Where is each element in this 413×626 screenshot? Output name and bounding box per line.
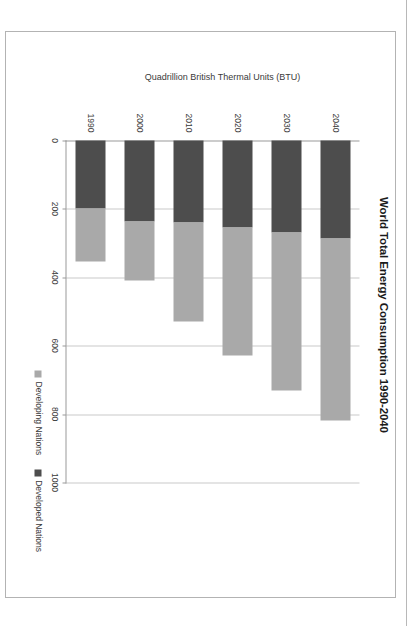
value-axis-title: Quadrillion British Thermal Units (BTU) (102, 71, 342, 81)
value-tick-label: 1000 (49, 464, 59, 500)
bar-segment-developing-2030[interactable] (271, 232, 301, 390)
bar-segment-developed-2020[interactable] (222, 140, 252, 227)
gridline (66, 482, 359, 483)
value-tick-mark (62, 208, 66, 209)
bar-group-2010[interactable] (173, 140, 203, 482)
bar-segment-developing-2000[interactable] (124, 221, 154, 280)
bar-group-1990[interactable] (75, 140, 105, 482)
chart-legend[interactable]: Developing Nations Developed Nations (33, 370, 43, 552)
gridline (66, 277, 359, 278)
value-tick-mark (62, 414, 66, 415)
bar-segment-developing-2040[interactable] (320, 238, 350, 420)
category-label-2010: 2010 (183, 90, 193, 132)
value-tick-mark (62, 140, 66, 141)
legend-item-developing[interactable]: Developing Nations (33, 370, 43, 455)
bar-group-2000[interactable] (124, 140, 154, 482)
bar-segment-developed-1990[interactable] (75, 140, 105, 208)
bar-segment-developing-1990[interactable] (75, 208, 105, 261)
bar-group-2040[interactable] (320, 140, 350, 482)
legend-label-developing: Developing Nations (33, 381, 43, 455)
bar-segment-developed-2000[interactable] (124, 140, 154, 221)
bar-group-2020[interactable] (222, 140, 252, 482)
bar-segment-developing-2020[interactable] (222, 227, 252, 355)
bar-segment-developed-2010[interactable] (173, 140, 203, 222)
gridline (66, 208, 359, 209)
legend-label-developed: Developed Nations (33, 480, 43, 552)
value-tick-label: 400 (49, 259, 59, 295)
category-label-2030: 2030 (281, 90, 291, 132)
legend-item-developed[interactable]: Developed Nations (33, 469, 43, 552)
value-tick-label: 600 (49, 327, 59, 363)
chart-rotated-stage: World Total Energy Consumption 1990-2040… (6, 32, 395, 597)
bar-segment-developed-2030[interactable] (271, 140, 301, 232)
bar-segment-developed-2040[interactable] (320, 140, 350, 238)
value-tick-label: 0 (49, 122, 59, 158)
chart-title: World Total Energy Consumption 1990-2040 (377, 32, 389, 597)
bar-segment-developing-2010[interactable] (173, 222, 203, 321)
category-label-2000: 2000 (134, 90, 144, 132)
legend-swatch-developing-icon (35, 370, 42, 377)
value-tick-label: 800 (49, 396, 59, 432)
gridline (66, 345, 359, 346)
bar-group-2030[interactable] (271, 140, 301, 482)
gridline (66, 414, 359, 415)
value-tick-mark (62, 345, 66, 346)
category-label-2020: 2020 (232, 90, 242, 132)
page-canvas: World Total Energy Consumption 1990-2040… (0, 0, 413, 626)
value-tick-mark (62, 277, 66, 278)
chart-object-frame[interactable]: World Total Energy Consumption 1990-2040… (5, 31, 396, 598)
value-tick-label: 200 (49, 190, 59, 226)
category-label-2040: 2040 (330, 90, 340, 132)
value-tick-mark (62, 482, 66, 483)
legend-swatch-developed-icon (35, 469, 42, 476)
category-label-1990: 1990 (85, 90, 95, 132)
scan-edge (406, 0, 407, 626)
plot-area (66, 140, 359, 482)
